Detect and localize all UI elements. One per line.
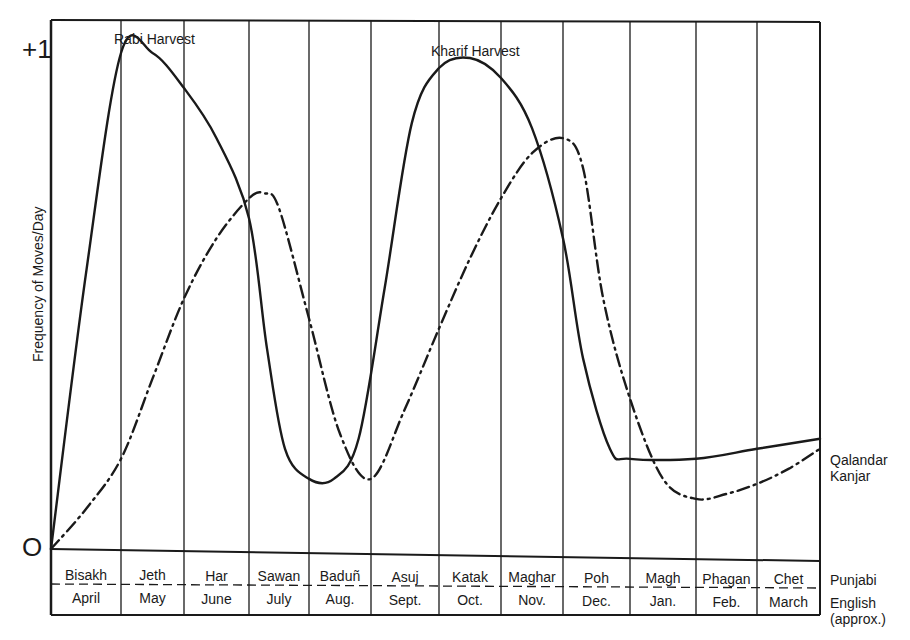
month-punjabi-label: Maghar bbox=[501, 570, 563, 584]
month-punjabi-label: Katak bbox=[439, 570, 501, 584]
annotation-rabi-harvest: Rabi Harvest bbox=[114, 32, 195, 46]
month-english-label: May bbox=[121, 591, 184, 605]
month-english-label: June bbox=[184, 592, 249, 606]
month-english-label: April bbox=[51, 591, 121, 605]
month-punjabi-label: Magh bbox=[630, 571, 696, 585]
row-label-english: English bbox=[830, 595, 876, 611]
month-english-label: Feb. bbox=[696, 595, 757, 609]
month-punjabi-label: Baduñ bbox=[309, 569, 371, 583]
month-english-label: Jan. bbox=[630, 594, 696, 608]
month-punjabi-label: Poh bbox=[563, 571, 630, 585]
month-english-label: Dec. bbox=[563, 594, 630, 608]
month-punjabi-label: Asuj bbox=[371, 570, 439, 584]
row-label-english-approx: (approx.) bbox=[830, 611, 886, 627]
month-english-label: Nov. bbox=[501, 593, 563, 607]
series-qalandar-line bbox=[51, 35, 820, 549]
y-tick-top: +1 bbox=[22, 36, 52, 62]
month-english-label: Sept. bbox=[371, 593, 439, 607]
series-kanjar-line bbox=[51, 138, 820, 549]
month-punjabi-label: Jeth bbox=[121, 568, 184, 582]
month-english-label: March bbox=[757, 595, 820, 609]
x-axis-baseline bbox=[51, 549, 820, 561]
frame-top bbox=[51, 20, 820, 22]
month-punjabi-label: Sawan bbox=[249, 569, 309, 583]
plot-frame bbox=[51, 20, 821, 615]
month-english-label: July bbox=[249, 592, 309, 606]
month-punjabi-label: Phagan bbox=[696, 572, 757, 586]
chart-canvas bbox=[0, 0, 910, 640]
series-curves bbox=[51, 35, 820, 549]
month-gridlines bbox=[51, 20, 820, 615]
legend-kanjar: Kanjar bbox=[830, 468, 870, 484]
legend-qalandar: Qalandar bbox=[830, 452, 888, 468]
month-english-label: Oct. bbox=[439, 593, 501, 607]
annotation-kharif-harvest: Kharif Harvest bbox=[431, 44, 520, 58]
y-axis-label: Frequency of Moves/Day bbox=[31, 206, 45, 362]
month-punjabi-label: Bisakh bbox=[51, 568, 121, 582]
y-tick-zero: O bbox=[22, 534, 42, 560]
month-punjabi-label: Har bbox=[184, 569, 249, 583]
row-label-punjabi: Punjabi bbox=[830, 572, 877, 588]
month-punjabi-label: Chet bbox=[757, 572, 820, 586]
month-english-label: Aug. bbox=[309, 592, 371, 606]
